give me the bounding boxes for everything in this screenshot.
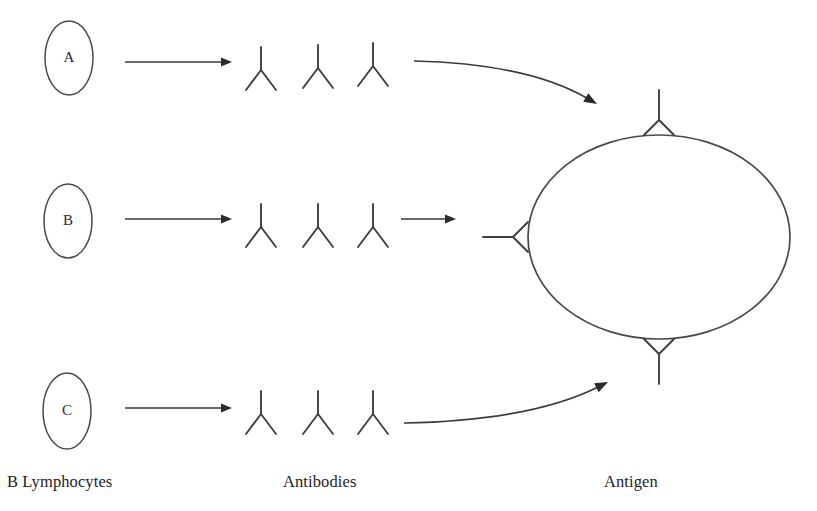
- immunology-diagram-svg: ABC: [0, 0, 817, 511]
- ab-a1: [246, 47, 276, 90]
- bound-antibody-left-arm-2: [513, 237, 528, 252]
- ab-c3: [358, 391, 388, 434]
- bound-antibody-left: [483, 222, 528, 252]
- binding-arrow-bottom-shaft: [404, 387, 598, 423]
- lymphocyte-b: B: [44, 184, 92, 258]
- bound-antibody-group: [483, 90, 674, 384]
- binding-arrow-top: [414, 61, 597, 104]
- bound-antibody-top: [644, 90, 674, 135]
- column-label-b-lymphocytes: B Lymphocytes: [7, 472, 112, 492]
- ab-a1-arm-left: [246, 70, 261, 90]
- ab-c3-arm-right: [373, 414, 388, 434]
- arrow-c-head: [221, 403, 232, 412]
- arrow-b-head: [221, 214, 232, 223]
- ab-b1-arm-left: [246, 227, 261, 247]
- column-label-antibodies: Antibodies: [283, 472, 356, 492]
- bound-antibody-left-arm-1: [513, 222, 528, 237]
- ab-c2: [303, 391, 333, 434]
- lymphocyte-label-a: A: [64, 49, 75, 65]
- ab-c2-arm-right: [318, 414, 333, 434]
- bound-antibody-top-arm-2: [644, 120, 659, 135]
- binding-arrow-top-head: [583, 93, 597, 104]
- column-label-antigen: Antigen: [604, 472, 658, 492]
- antigen-outline: [528, 135, 790, 339]
- binding-arrow-bottom: [404, 382, 608, 423]
- ab-a2: [303, 45, 333, 88]
- lymphocyte-label-c: C: [62, 402, 72, 418]
- ab-a3-arm-right: [373, 66, 388, 86]
- ab-b2: [303, 204, 333, 247]
- ab-a2-arm-left: [303, 68, 318, 88]
- binding-arrow-middle-head: [445, 214, 456, 223]
- arrow-c: [125, 403, 232, 412]
- ab-b1: [246, 204, 276, 247]
- arrow-a-head: [221, 57, 232, 66]
- ab-b3: [358, 204, 388, 247]
- ab-b3-arm-right: [373, 227, 388, 247]
- binding-arrow-bottom-head: [594, 382, 608, 392]
- binding-arrow-group: [401, 61, 608, 423]
- bound-antibody-top-arm-1: [659, 120, 674, 135]
- ab-b2-arm-left: [303, 227, 318, 247]
- ab-c3-arm-left: [358, 414, 373, 434]
- binding-arrow-top-shaft: [414, 61, 587, 98]
- lymphocyte-label-b: B: [63, 212, 73, 228]
- bound-antibody-bottom: [644, 339, 674, 384]
- bound-antibody-bottom-arm-1: [644, 339, 659, 354]
- ab-c1: [246, 391, 276, 434]
- ab-b1-arm-right: [261, 227, 276, 247]
- ab-b3-arm-left: [358, 227, 373, 247]
- bound-antibody-bottom-arm-2: [659, 339, 674, 354]
- ab-a2-arm-right: [318, 68, 333, 88]
- lymphocyte-group: ABC: [43, 21, 93, 449]
- ab-c2-arm-left: [303, 414, 318, 434]
- diagram-canvas: ABC B Lymphocytes Antibodies Antigen: [0, 0, 817, 511]
- antigen-group: [528, 135, 790, 339]
- ab-c1-arm-left: [246, 414, 261, 434]
- ab-c1-arm-right: [261, 414, 276, 434]
- lymphocyte-c: C: [43, 373, 91, 449]
- free-antibody-group: [246, 43, 388, 434]
- binding-arrow-middle: [401, 214, 456, 223]
- ab-a3-arm-left: [358, 66, 373, 86]
- arrow-b: [125, 214, 232, 223]
- production-arrow-group: [125, 57, 232, 412]
- ab-a1-arm-right: [261, 70, 276, 90]
- arrow-a: [125, 57, 232, 66]
- ab-b2-arm-right: [318, 227, 333, 247]
- lymphocyte-a: A: [45, 21, 93, 95]
- ab-a3: [358, 43, 388, 86]
